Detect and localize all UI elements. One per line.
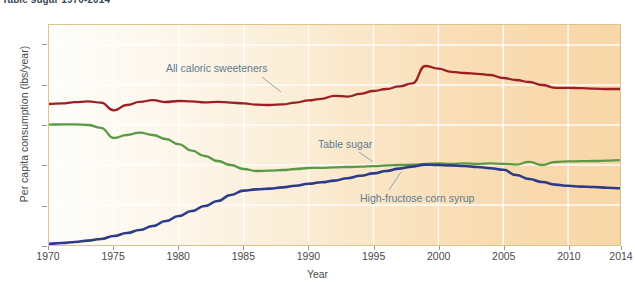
x-tick-label: 2005 [492,250,515,262]
x-tick-mark [439,246,440,250]
x-tick-mark [178,246,179,250]
x-tick-label: 1980 [167,250,190,262]
y-tick-mark [42,206,47,207]
y-tick-mark [42,165,47,166]
x-tick-mark [569,246,570,250]
annotation-table-sugar: Table sugar [318,138,372,150]
plot-area [48,24,621,246]
x-axis-label: Year [0,268,635,280]
x-tick-label: 1995 [362,250,385,262]
y-tick-mark [42,44,47,45]
page-caption-remnant [0,284,635,290]
x-tick-mark [113,246,114,250]
x-tick-mark [48,246,49,250]
gridlines [49,25,620,245]
x-tick-mark [243,246,244,250]
chart-figure: Table sugar 1970-2014 Per capita consump… [0,0,635,290]
y-tick-mark [42,85,47,86]
y-tick-mark [42,125,47,126]
series-line [49,165,620,244]
annotation-high-fructose-corn-syrup: High-fructose corn syrup [360,192,474,204]
x-tick-label: 2010 [557,250,580,262]
x-tick-label: 1975 [101,250,124,262]
x-tick-mark [374,246,375,250]
x-tick-mark [308,246,309,250]
x-tick-mark [621,246,622,250]
y-tick-mark [42,246,47,247]
x-tick-label: 2014 [609,250,632,262]
x-tick-mark [504,246,505,250]
x-tick-label: 1990 [297,250,320,262]
plot-canvas [49,25,620,245]
x-tick-label: 1970 [36,250,59,262]
annotation-all-caloric-sweeteners: All caloric sweeteners [166,62,268,74]
y-axis-ticks: 020406080100 [0,0,48,290]
data-curves [49,66,620,244]
series-line [49,66,620,110]
x-tick-label: 2000 [427,250,450,262]
x-tick-label: 1985 [232,250,255,262]
